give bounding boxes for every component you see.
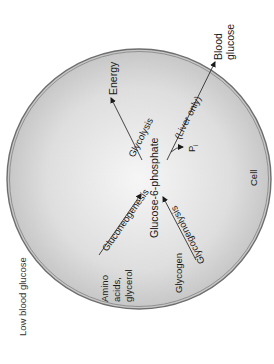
center-metabolite-label: Glucose-6-phosphate xyxy=(148,137,160,238)
cell-label: Cell xyxy=(248,170,259,186)
cell xyxy=(7,49,271,309)
precursors-label-line3: glycerol xyxy=(123,269,134,302)
glycogen-label: Glycogen xyxy=(173,253,184,293)
blood-glucose-label-line1: Blood xyxy=(212,33,224,60)
pi-subscript: i xyxy=(192,145,199,146)
condition-label: Low blood glucose xyxy=(17,257,28,336)
precursors-label-line2: acids, xyxy=(111,277,122,302)
cell-body xyxy=(7,49,271,309)
diagram-canvas: Glucose-6-phosphate Energy Glycolysis Gl… xyxy=(0,0,274,364)
blood-glucose-label-line2: glucose xyxy=(224,24,236,60)
precursors-label-line1: Amino xyxy=(99,275,110,302)
energy-label: Energy xyxy=(107,61,119,95)
